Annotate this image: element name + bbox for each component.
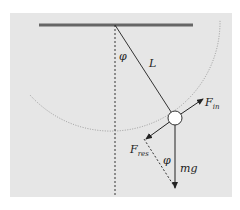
pendulum-diagram: φ L Fin Fres φ mg [0, 0, 240, 210]
angle-label-bottom: φ [163, 154, 171, 167]
pendulum-bob [168, 111, 182, 125]
resultant-force-label: Fres [129, 143, 149, 158]
length-label: L [148, 57, 156, 70]
gravity-label: mg [180, 162, 197, 175]
swing-arc [30, 20, 220, 131]
inertial-force-label: Fin [204, 96, 220, 111]
pendulum-string [115, 25, 175, 118]
angle-label-top: φ [119, 50, 127, 63]
